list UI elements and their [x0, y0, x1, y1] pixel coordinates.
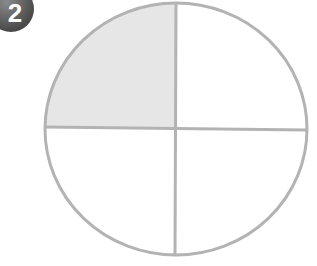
fraction-circle-diagram — [0, 0, 317, 266]
shaded-quarter — [45, 3, 176, 128]
horizontal-divider — [45, 127, 306, 130]
